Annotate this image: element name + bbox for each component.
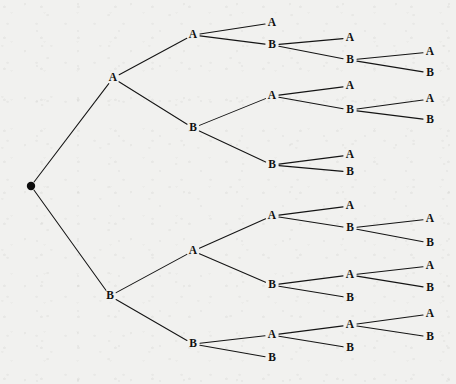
tree-edge <box>279 39 343 45</box>
tree-node-label: A <box>268 16 277 28</box>
tree-edge <box>199 99 265 126</box>
tree-edge <box>199 219 265 248</box>
tree-node-label: B <box>346 221 354 233</box>
tree-edge <box>200 345 265 357</box>
tree-diagram-canvas: ABABABABABABABABABABABABABABABABABAB <box>0 0 456 384</box>
tree-edge <box>357 315 423 324</box>
tree-node-label: A <box>346 318 355 330</box>
tree-node-label: A <box>268 328 277 340</box>
tree-node-label: B <box>268 158 276 170</box>
tree-node-label: B <box>426 66 434 78</box>
tree-edge <box>357 229 423 241</box>
root-node-dot <box>27 182 35 190</box>
tree-edge <box>200 24 265 34</box>
tree-edge <box>119 82 187 125</box>
tree-node-label: A <box>346 199 355 211</box>
tree-node-label: A <box>346 31 355 43</box>
node-layer: ABABABABABABABABABABABABABABABABABAB <box>27 16 435 363</box>
tree-node-label: B <box>268 38 276 50</box>
tree-edge <box>116 254 187 292</box>
tree-edge <box>200 36 265 44</box>
tree-node-label: A <box>346 148 355 160</box>
tree-edge <box>279 156 343 164</box>
tree-node-label: A <box>426 307 435 319</box>
tree-edge <box>357 53 423 60</box>
tree-node-label: B <box>346 291 354 303</box>
tree-node-label: B <box>106 289 114 301</box>
tree-diagram: ABABABABABABABABABABABABABABABABABAB <box>0 0 456 384</box>
tree-edge <box>357 111 423 119</box>
tree-node-label: B <box>346 341 354 353</box>
tree-edge <box>357 267 423 274</box>
tree-node-label: B <box>426 281 434 293</box>
tree-edge <box>200 336 265 343</box>
tree-edge <box>357 61 423 72</box>
tree-edge <box>119 38 187 74</box>
tree-edge <box>357 220 423 227</box>
tree-node-label: B <box>346 103 354 115</box>
tree-edge <box>279 87 343 95</box>
tree-node-label: B <box>426 113 434 125</box>
tree-edge <box>199 254 265 282</box>
tree-node-label: A <box>109 71 118 83</box>
tree-edge <box>357 100 423 109</box>
tree-edge <box>34 84 109 182</box>
tree-edge <box>279 286 343 297</box>
tree-edge <box>279 207 343 215</box>
tree-node-label: A <box>426 212 435 224</box>
tree-node-label: A <box>346 79 355 91</box>
tree-node-label: A <box>268 209 277 221</box>
tree-edge <box>357 326 423 336</box>
tree-edge <box>279 326 343 334</box>
tree-node-label: B <box>189 121 197 133</box>
tree-node-label: B <box>346 165 354 177</box>
tree-node-label: A <box>189 28 198 40</box>
tree-node-label: B <box>346 53 354 65</box>
tree-node-label: A <box>189 244 198 256</box>
tree-node-label: A <box>426 92 435 104</box>
tree-edge <box>279 97 343 109</box>
tree-node-label: B <box>189 337 197 349</box>
tree-node-label: A <box>426 259 435 271</box>
tree-node-label: B <box>268 351 276 363</box>
tree-edge <box>279 166 343 172</box>
tree-edge <box>34 190 106 290</box>
tree-node-label: A <box>426 45 435 57</box>
tree-node-label: B <box>426 330 434 342</box>
tree-edge <box>357 276 423 287</box>
tree-node-label: B <box>268 278 276 290</box>
tree-edge <box>279 46 343 58</box>
tree-edge <box>279 276 343 284</box>
tree-edge <box>116 300 187 341</box>
tree-node-label: A <box>346 268 355 280</box>
tree-node-label: A <box>268 89 277 101</box>
tree-edge <box>279 336 343 347</box>
tree-edge <box>279 217 343 227</box>
tree-node-label: B <box>426 236 434 248</box>
tree-edge <box>199 131 265 162</box>
edge-layer <box>34 24 423 357</box>
